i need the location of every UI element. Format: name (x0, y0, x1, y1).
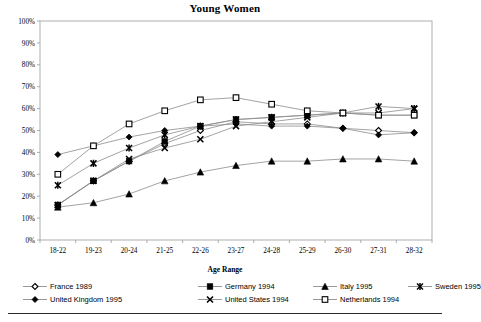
x-axis-tick-label: 20-24 (121, 247, 138, 255)
y-axis-tick-label: 90% (22, 40, 35, 48)
data-point-marker-square-open (411, 112, 417, 118)
x-axis-tick-label: 28-32 (406, 247, 423, 255)
data-point-marker-square-open (376, 112, 382, 118)
y-axis-tick-label: 30% (22, 171, 35, 179)
y-axis-tick-label: 0% (25, 237, 35, 245)
x-axis-tick-label: 24-28 (263, 247, 280, 255)
x-axis-tick-label: 27-31 (370, 247, 387, 255)
legend-item-united-states-1994[interactable]: United States 1994 (197, 294, 289, 305)
legend-label: Netherlands 1994 (338, 294, 399, 305)
data-point-marker-square-open (269, 101, 275, 107)
legend-label: United States 1994 (223, 294, 289, 305)
legend-row: France 1989Germany 1994Italy 1995Sweden … (22, 281, 442, 294)
y-axis-tick-label: 40% (22, 149, 35, 157)
y-axis-tick-label: 10% (22, 215, 35, 223)
x-axis-tick-label: 22-26 (192, 247, 209, 255)
legend-marker-cross-x-icon (197, 294, 223, 305)
legend-marker-square-open-icon (312, 294, 338, 305)
data-point-marker-square-open (304, 108, 310, 114)
y-axis-tick-label: 60% (22, 105, 35, 113)
y-axis-tick-label: 70% (22, 83, 35, 91)
legend-item-sweden-1995[interactable]: Sweden 1995 (407, 281, 481, 292)
legend-item-italy-1995[interactable]: Italy 1995 (312, 281, 373, 292)
data-point-marker-diamond-filled (32, 297, 38, 303)
legend-item-united-kingdom-1995[interactable]: United Kingdom 1995 (22, 294, 122, 305)
data-point-marker-square-open (322, 297, 328, 303)
x-axis-tick-label: 25-29 (299, 247, 316, 255)
legend-label: Germany 1994 (223, 281, 275, 292)
legend-marker-diamond-open-icon (22, 281, 48, 292)
data-point-marker-square-open (198, 97, 204, 103)
line-chart-plot: 0%10%20%30%40%50%60%70%80%90%100%18-2219… (0, 0, 450, 270)
legend-marker-triangle-filled-icon (312, 281, 338, 292)
x-axis-tick-label: 18-22 (49, 247, 66, 255)
y-axis-tick-label: 100% (18, 18, 35, 26)
y-axis-tick-label: 50% (22, 127, 35, 135)
y-axis-tick-label: 20% (22, 193, 35, 201)
legend-label: France 1989 (48, 281, 92, 292)
legend-marker-square-filled-icon (197, 281, 223, 292)
x-axis-tick-label: 26-30 (335, 247, 352, 255)
data-point-marker-square-open (162, 108, 168, 114)
x-axis-title: Age Range (0, 265, 450, 274)
data-point-marker-square-filled (162, 139, 168, 145)
y-axis-tick-label: 80% (22, 61, 35, 69)
legend-marker-diamond-filled-icon (22, 294, 48, 305)
data-point-marker-square-open (126, 121, 132, 127)
legend-item-germany-1994[interactable]: Germany 1994 (197, 281, 275, 292)
data-point-marker-square-open (91, 143, 97, 149)
data-point-marker-square-open (55, 172, 61, 178)
legend-label: United Kingdom 1995 (48, 294, 122, 305)
legend-label: Sweden 1995 (433, 281, 481, 292)
legend-label: Italy 1995 (338, 281, 373, 292)
x-axis-tick-label: 21-25 (156, 247, 173, 255)
data-point-marker-square-open (340, 110, 346, 116)
data-point-marker-square-filled (207, 284, 213, 290)
legend-item-france-1989[interactable]: France 1989 (22, 281, 92, 292)
x-axis-tick-label: 19-23 (85, 247, 102, 255)
data-point-marker-square-open (233, 95, 239, 101)
legend-marker-asterisk-icon (407, 281, 433, 292)
x-axis-tick-label: 23-27 (228, 247, 245, 255)
data-point-marker-diamond-open (32, 284, 38, 290)
chart-legend: France 1989Germany 1994Italy 1995Sweden … (22, 281, 442, 307)
legend-row: United Kingdom 1995United States 1994Net… (22, 294, 442, 307)
legend-item-netherlands-1994[interactable]: Netherlands 1994 (312, 294, 399, 305)
footer-divider (8, 313, 442, 314)
